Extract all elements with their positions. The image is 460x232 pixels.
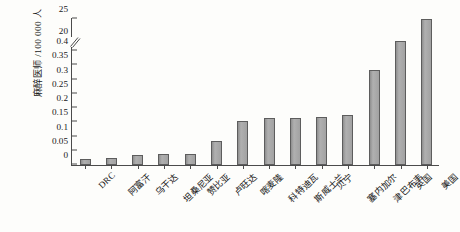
y-tick-label: 0	[63, 150, 72, 160]
y-tick-label: 25	[59, 4, 72, 14]
y-tick-mark	[72, 40, 77, 41]
y-axis-title: 麻醉医师 /100 000 人	[30, 0, 44, 128]
bar	[237, 121, 248, 165]
bar-slot	[256, 18, 282, 165]
bar	[342, 115, 353, 165]
y-tick-label: 0.25	[52, 79, 72, 89]
y-tick-mark	[72, 50, 77, 51]
bar-slot	[414, 18, 440, 165]
y-tick-mark	[72, 78, 77, 79]
bar	[421, 19, 432, 165]
y-tick-mark	[72, 149, 77, 150]
bar-series	[72, 18, 439, 165]
bar	[264, 118, 275, 165]
y-tick-mark	[72, 135, 77, 136]
bar	[158, 154, 169, 165]
x-tick-mark	[111, 165, 112, 169]
y-tick-mark	[72, 92, 77, 93]
x-axis-category-labels: DRC阿富汗乌干达坦桑尼亚赞比亚卢旺达喀麦隆科特迪瓦斯威士兰贝宁塞内加尔津巴布韦…	[71, 170, 439, 230]
x-tick-mark	[427, 165, 428, 169]
x-tick-mark	[322, 165, 323, 169]
x-tick-mark	[85, 165, 86, 169]
bar	[106, 158, 117, 165]
y-tick-mark	[72, 164, 77, 165]
bar-slot	[98, 18, 124, 165]
x-axis-label: DRC	[97, 170, 118, 190]
bar	[132, 155, 143, 165]
bar-slot	[230, 18, 256, 165]
x-tick-mark	[374, 165, 375, 169]
bar-slot	[309, 18, 335, 165]
x-tick-mark	[138, 165, 139, 169]
y-tick-label: 0.2	[57, 93, 72, 103]
bar	[290, 118, 301, 165]
x-axis-label: 美国	[438, 170, 460, 192]
y-tick-label: 0.3	[57, 65, 72, 75]
bar-slot	[177, 18, 203, 165]
bar	[395, 41, 406, 165]
bar	[185, 154, 196, 165]
bar-slot	[203, 18, 229, 165]
x-tick-mark	[243, 165, 244, 169]
y-tick-label: 0.4	[57, 36, 72, 46]
y-tick-mark	[72, 18, 77, 19]
x-axis-label: 阿富汗	[125, 170, 154, 199]
bar	[211, 141, 222, 165]
y-tick-label: 20	[59, 26, 72, 36]
bar	[316, 117, 327, 165]
y-tick-label: 0.05	[52, 136, 72, 146]
x-tick-mark	[348, 165, 349, 169]
x-tick-mark	[401, 165, 402, 169]
x-tick-mark	[269, 165, 270, 169]
y-tick-mark	[72, 121, 77, 122]
x-axis-label: 喀麦隆	[257, 170, 286, 199]
x-axis-label: 乌干达	[151, 170, 180, 199]
x-tick-mark	[190, 165, 191, 169]
plot-area: 00.050.10.150.20.250.30.350.42025	[71, 18, 439, 166]
bar-slot	[282, 18, 308, 165]
y-tick-mark	[72, 64, 77, 65]
bar-slot	[151, 18, 177, 165]
x-tick-mark	[164, 165, 165, 169]
y-tick-mark	[72, 107, 77, 108]
bar-slot	[387, 18, 413, 165]
x-tick-mark	[295, 165, 296, 169]
bar-slot	[335, 18, 361, 165]
x-tick-mark	[217, 165, 218, 169]
x-axis-label: 卢旺达	[230, 170, 259, 199]
y-tick-label: 0.15	[52, 107, 72, 117]
bar	[369, 70, 380, 165]
bar-slot	[125, 18, 151, 165]
y-tick-label: 0.1	[57, 122, 72, 132]
bar-slot	[361, 18, 387, 165]
y-tick-label: 0.35	[52, 50, 72, 60]
